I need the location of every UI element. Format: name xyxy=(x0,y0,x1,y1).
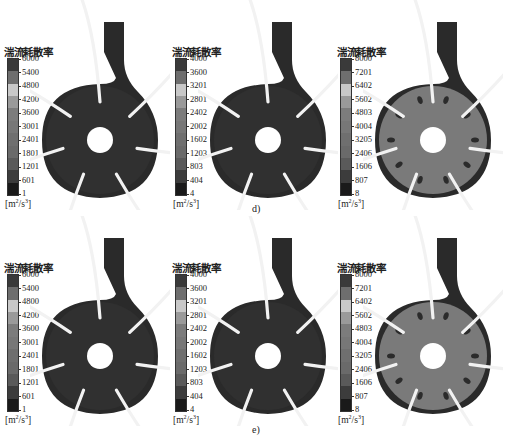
contour-panel: 湍流耗散率 6000540048004200360030012401180112… xyxy=(0,0,170,210)
colorbar-band xyxy=(176,121,186,133)
impeller-hub xyxy=(87,343,113,369)
colorbar-band xyxy=(341,386,351,398)
unit-label: [m2/s3] xyxy=(338,198,364,209)
colorbar-band xyxy=(176,146,186,158)
pump-contour-plot xyxy=(30,0,170,210)
colorbar-band xyxy=(341,300,351,312)
impeller-hub xyxy=(87,127,113,153)
colorbar-band xyxy=(176,324,186,336)
colorbar-band xyxy=(176,337,186,349)
colorbar-band xyxy=(341,84,351,96)
colorbar-band xyxy=(176,362,186,374)
colorbar-band xyxy=(8,146,18,158)
unit-label: [m2/s3] xyxy=(5,414,31,425)
colorbar-band xyxy=(341,399,351,411)
colorbar-band xyxy=(341,133,351,145)
colorbar-band xyxy=(8,362,18,374)
colorbar-band xyxy=(176,275,186,287)
colorbar-band xyxy=(176,158,186,170)
colorbar-band xyxy=(8,121,18,133)
colorbar-band xyxy=(341,158,351,170)
colorbar-band xyxy=(8,183,18,195)
contour-panel: 湍流耗散率 4000360032012801240220021602120380… xyxy=(168,216,338,426)
colorbar-band xyxy=(176,300,186,312)
colorbar-band xyxy=(176,399,186,411)
contour-panel: 湍流耗散率 6000540048004200360030012401180112… xyxy=(0,216,170,426)
pump-contour-plot xyxy=(198,216,338,426)
colorbar-band xyxy=(176,108,186,120)
colorbar-band xyxy=(341,170,351,182)
colorbar-band xyxy=(8,96,18,108)
colorbar-band xyxy=(341,275,351,287)
pump-contour-plot xyxy=(198,0,338,210)
colorbar-band xyxy=(8,399,18,411)
colorbar-band xyxy=(341,96,351,108)
colorbar-band xyxy=(8,312,18,324)
colorbar-band xyxy=(176,71,186,83)
colorbar-band xyxy=(341,312,351,324)
colorbar-band xyxy=(341,337,351,349)
colorbar-band xyxy=(341,287,351,299)
pump-contour-plot xyxy=(363,216,503,426)
colorbar-band xyxy=(341,59,351,71)
colorbar-band xyxy=(8,300,18,312)
colorbar-band xyxy=(8,386,18,398)
impeller-hub xyxy=(255,127,281,153)
pump-contour-plot xyxy=(30,216,170,426)
colorbar-band xyxy=(176,133,186,145)
contour-panel: 湍流耗散率 4000360032012801240220021602120380… xyxy=(168,0,338,210)
colorbar-band xyxy=(341,324,351,336)
colorbar-band xyxy=(8,275,18,287)
subfigure-caption: e) xyxy=(252,424,260,435)
unit-label: [m2/s3] xyxy=(5,198,31,209)
colorbar-band xyxy=(8,133,18,145)
subfigure-caption: d) xyxy=(252,203,260,214)
impeller-hub xyxy=(255,343,281,369)
unit-label: [m2/s3] xyxy=(173,198,199,209)
colorbar-band xyxy=(341,108,351,120)
colorbar-band xyxy=(8,59,18,71)
colorbar-band xyxy=(8,374,18,386)
unit-label: [m2/s3] xyxy=(173,414,199,425)
colorbar-band xyxy=(176,287,186,299)
contour-panel: 湍流耗散率 8000720164025602480340043205240616… xyxy=(333,0,503,210)
colorbar-band xyxy=(176,96,186,108)
colorbar-band xyxy=(8,71,18,83)
colorbar-band xyxy=(341,349,351,361)
colorbar-band xyxy=(8,337,18,349)
colorbar-band xyxy=(8,158,18,170)
contour-panel: 湍流耗散率 8000720164025602480340043205240616… xyxy=(333,216,503,426)
colorbar-band xyxy=(176,386,186,398)
colorbar-band xyxy=(341,374,351,386)
colorbar-band xyxy=(176,84,186,96)
pump-contour-plot xyxy=(363,0,503,210)
colorbar-band xyxy=(8,170,18,182)
colorbar-band xyxy=(176,374,186,386)
colorbar-band xyxy=(176,183,186,195)
colorbar-band xyxy=(341,71,351,83)
colorbar-band xyxy=(176,349,186,361)
colorbar-band xyxy=(8,324,18,336)
colorbar-band xyxy=(341,362,351,374)
unit-label: [m2/s3] xyxy=(338,414,364,425)
colorbar-band xyxy=(176,312,186,324)
colorbar-band xyxy=(8,84,18,96)
colorbar-band xyxy=(176,170,186,182)
colorbar-band xyxy=(341,146,351,158)
colorbar-band xyxy=(8,349,18,361)
impeller-hub xyxy=(420,127,446,153)
colorbar-band xyxy=(176,59,186,71)
colorbar-band xyxy=(8,287,18,299)
impeller-hub xyxy=(420,343,446,369)
colorbar-band xyxy=(341,183,351,195)
colorbar-band xyxy=(341,121,351,133)
colorbar-band xyxy=(8,108,18,120)
